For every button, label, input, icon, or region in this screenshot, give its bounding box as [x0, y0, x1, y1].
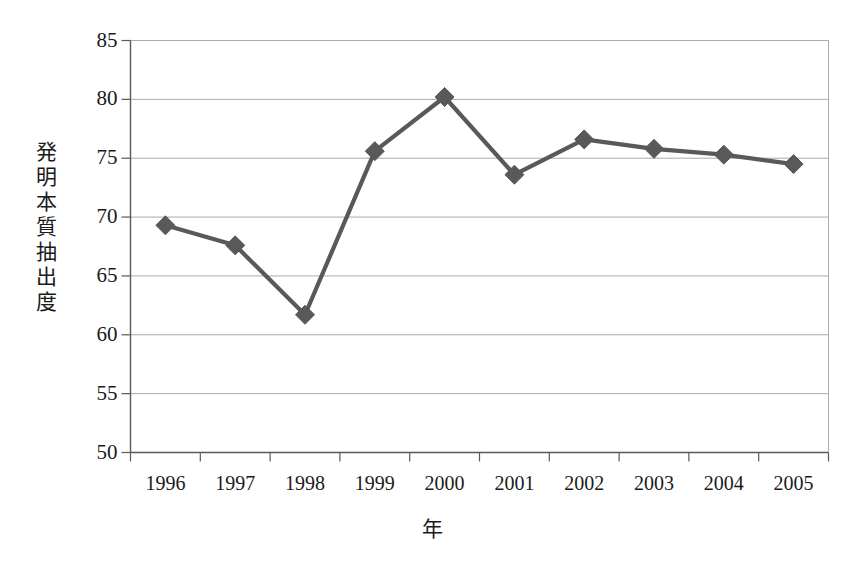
- y-axis-tick-marks: [122, 41, 131, 453]
- data-point-marker: [714, 145, 733, 164]
- x-axis-tick-marks: [131, 453, 829, 462]
- data-point-marker: [784, 155, 803, 174]
- data-point-markers: [156, 88, 803, 325]
- series-line: [165, 97, 793, 315]
- data-point-marker: [645, 139, 664, 158]
- data-point-marker: [575, 130, 594, 149]
- plot-area: [0, 0, 865, 575]
- chart-container: 発明本質抽出度 年 5055606570758085 1996199719981…: [0, 0, 865, 575]
- data-point-marker: [156, 216, 175, 235]
- data-series-line: [165, 97, 793, 315]
